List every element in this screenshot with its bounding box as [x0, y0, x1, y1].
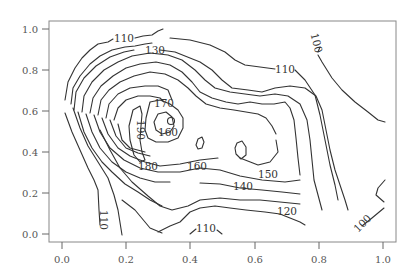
- contour-label: 110: [114, 32, 134, 44]
- contour-label: 120: [277, 205, 297, 217]
- contour-lines: [65, 29, 385, 235]
- contour-label: 150: [258, 168, 278, 180]
- x-tick-label: 0.8: [311, 254, 327, 265]
- y-tick-label: 1.0: [22, 24, 38, 35]
- contour-label: 130: [145, 44, 165, 56]
- x-axis: 0.0 0.2 0.4 0.6 0.8 1.0: [54, 242, 391, 265]
- contour-label: 110: [275, 63, 295, 75]
- contour-label: 180: [138, 160, 158, 172]
- contour-label: 140: [233, 180, 253, 192]
- contour-label: 170: [154, 97, 174, 109]
- contour-label: 190: [135, 120, 147, 140]
- contour-labels: 110 130 100 110 170 190 160 180 160 150 …: [98, 32, 374, 235]
- contour-plot: 1.0 0.8 0.6 0.4 0.2 0.0 0.0 0.2 0.4 0.6 …: [0, 0, 416, 279]
- contour-label: 160: [187, 160, 207, 172]
- contour-label: 110: [98, 210, 110, 230]
- x-tick-label: 1.0: [375, 254, 391, 265]
- contour-label: 110: [196, 222, 216, 234]
- x-tick-label: 0.0: [54, 254, 70, 265]
- contour-label: 100: [308, 32, 325, 54]
- x-tick-label: 0.2: [118, 254, 134, 265]
- y-tick-label: 0.2: [22, 188, 38, 199]
- y-axis: 1.0 0.8 0.6 0.4 0.2 0.0: [22, 24, 49, 240]
- contour-label: 160: [158, 126, 178, 138]
- x-tick-label: 0.4: [182, 254, 198, 265]
- contour-label: 100: [351, 212, 374, 235]
- y-tick-label: 0.4: [22, 147, 38, 158]
- y-tick-label: 0.6: [22, 106, 38, 117]
- y-tick-label: 0.8: [22, 65, 38, 76]
- x-tick-label: 0.6: [247, 254, 263, 265]
- y-tick-label: 0.0: [22, 229, 38, 240]
